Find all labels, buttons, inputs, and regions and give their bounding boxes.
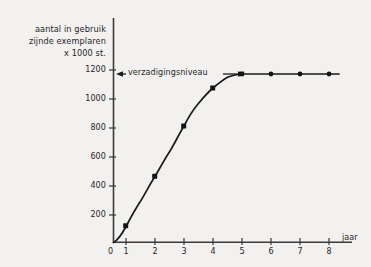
data-point-year-3 [181, 124, 186, 129]
data-point-year-8 [327, 72, 332, 77]
chart-canvas: aantal in gebruik zijnde exemplaren x 10… [0, 0, 371, 267]
data-point-year-5 [240, 72, 245, 77]
data-point-year-2 [152, 174, 157, 179]
data-point-year-4 [210, 86, 215, 91]
chart-plot-svg [0, 0, 371, 267]
data-curve [114, 74, 340, 243]
data-point-year-6 [269, 72, 274, 77]
data-point-year-1 [123, 223, 128, 228]
y-axis-ticks [109, 70, 116, 215]
data-point-markers [123, 72, 331, 229]
data-point-year-7 [298, 72, 303, 77]
saturation-level-arrow [116, 71, 245, 77]
